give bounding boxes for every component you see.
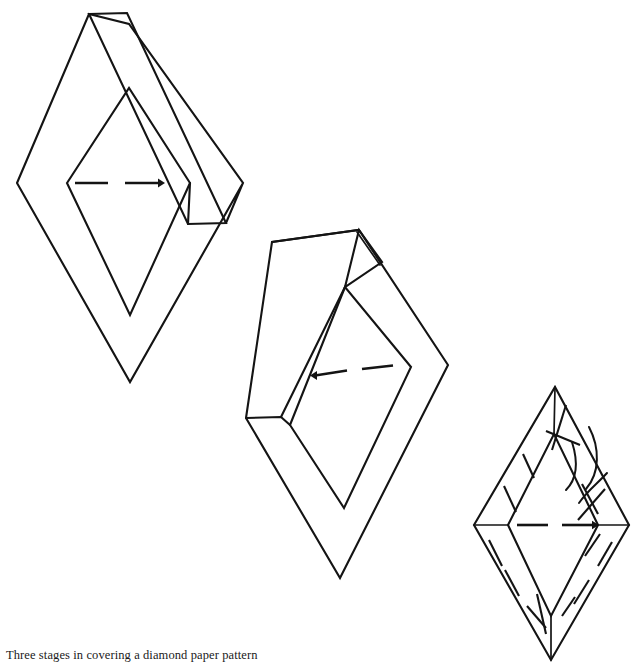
stage-3-center-arrow <box>517 521 599 530</box>
stage-1-group <box>17 13 243 382</box>
stitch-mark <box>504 486 516 512</box>
figure-stage <box>0 0 638 672</box>
stitch-mark <box>537 594 546 634</box>
stage-3-mitre-crease-top <box>554 387 555 434</box>
thread-loop-inner <box>566 442 576 490</box>
stage-2-arrow-dash-right <box>362 366 393 370</box>
stitch-mark <box>523 454 534 478</box>
stitch-mark <box>562 597 575 616</box>
stage-2-group <box>246 230 448 578</box>
figure-caption: Three stages in covering a diamond paper… <box>6 648 258 663</box>
stage-1-center-arrow <box>75 179 165 188</box>
stage-2-fold-strip-inner-edge <box>281 287 345 417</box>
stitch-mark <box>598 542 612 566</box>
stage-2-arrow-dash-left <box>315 371 347 376</box>
thread-loop-outer <box>586 427 597 489</box>
stage-1-arrow-head-icon <box>158 179 165 188</box>
stitch-mark <box>574 580 589 604</box>
diamond-paper-pattern-illustration <box>0 0 638 672</box>
stage-1-inner-diamond-edge <box>67 88 190 315</box>
stage-3-group <box>474 387 629 660</box>
stage-2-corner-flap-crease <box>357 232 380 265</box>
stage-2-center-arrow <box>310 366 393 381</box>
stage-1-outer-diamond-edge <box>17 14 243 382</box>
